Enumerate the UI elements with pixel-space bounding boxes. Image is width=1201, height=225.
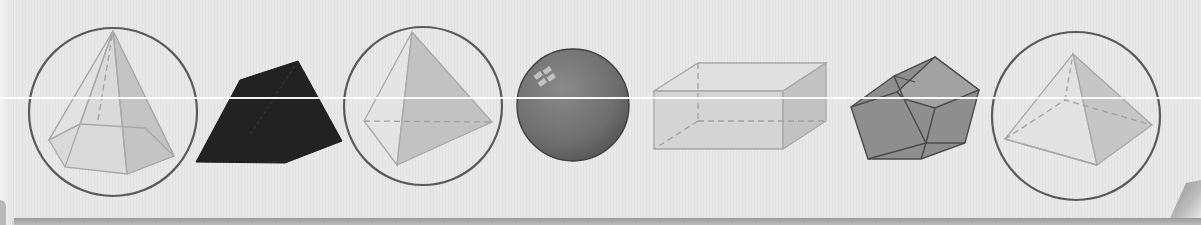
rectangular-prism <box>654 63 826 149</box>
scan-line <box>0 97 1201 99</box>
sphere <box>517 49 629 161</box>
dodecahedron <box>851 57 979 159</box>
page-bottom-edge <box>14 218 1201 225</box>
trapezoidal-solid <box>196 61 342 163</box>
shapes-figure <box>0 0 1201 225</box>
triangular-pyramid <box>344 27 502 185</box>
hexagonal-pyramid <box>29 28 197 196</box>
square-pyramid <box>992 32 1160 200</box>
